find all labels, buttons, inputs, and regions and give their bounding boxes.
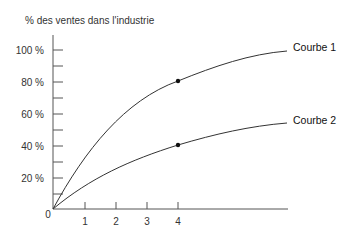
y-tick-80: 80 % — [21, 77, 44, 88]
y-tick-100: 100 % — [16, 45, 44, 56]
y-tick-40: 40 % — [21, 141, 44, 152]
curve-2-label: Courbe 2 — [293, 114, 336, 126]
x-tick-1: 1 — [82, 216, 88, 227]
curve-1 — [53, 51, 287, 209]
curve-1-label: Courbe 1 — [293, 41, 336, 53]
origin-label: 0 — [45, 209, 51, 220]
y-tick-20: 20 % — [21, 173, 44, 184]
curve-2-marker — [176, 143, 180, 147]
y-axis-title: % des ventes dans l'industrie — [25, 15, 155, 26]
x-tick-2: 2 — [113, 216, 119, 227]
curve-2 — [53, 123, 287, 209]
x-ticks — [85, 202, 178, 209]
x-tick-4: 4 — [175, 216, 181, 227]
y-ticks — [53, 50, 63, 194]
y-tick-60: 60 % — [21, 109, 44, 120]
chart: % des ventes dans l'industrie 100 % 80 %… — [0, 0, 354, 236]
curve-1-marker — [176, 79, 180, 83]
x-tick-3: 3 — [144, 216, 150, 227]
